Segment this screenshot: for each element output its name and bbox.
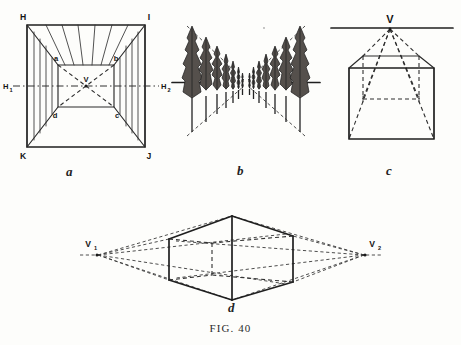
horizon-label-right-letter: H [161, 82, 166, 91]
vanishing-point-right-label: V 2 [369, 239, 381, 251]
vertex-label-J: J [147, 151, 152, 161]
figure-plate: H I K J a b c d V H 1 H 2 a [0, 0, 461, 345]
tree-left-1 [182, 26, 202, 132]
figure-b-drawing [172, 8, 320, 160]
cube-top-face [349, 56, 434, 68]
stray-mark [263, 27, 265, 29]
vertex-label-a: a [54, 54, 59, 63]
vertex-label-c: c [115, 111, 119, 120]
tree-right-1 [290, 26, 310, 132]
figure-d: V 1 V 2 [72, 202, 390, 314]
vertex-label-d: d [53, 111, 58, 120]
vertex-label-V2-letter: V [369, 239, 375, 249]
vanishing-point-marker [389, 28, 392, 31]
horizon-label-right-subscript: 2 [168, 87, 171, 93]
tree-right-6 [252, 67, 255, 99]
tree-row-right [249, 26, 310, 132]
tree-right-3 [270, 46, 280, 114]
tree-right-7 [249, 73, 251, 95]
horizon-label-right: H 2 [161, 82, 171, 93]
vertex-label-V1-subscript: 1 [94, 245, 97, 251]
vanishing-point-right-marker [364, 254, 367, 257]
figure-a-drawing: H I K J a b c d V H 1 H 2 [0, 4, 175, 164]
figure-c: V [322, 6, 461, 164]
tree-left-7 [242, 73, 244, 95]
vanishing-rays [349, 29, 434, 139]
vertex-label-K: K [20, 151, 27, 161]
plate-caption: FIG. 40 [0, 322, 461, 334]
vanishing-point-left-label: V 1 [85, 239, 97, 251]
horizon-label-left: H 1 [3, 82, 13, 93]
figure-b [172, 8, 320, 160]
figure-c-sublabel: c [386, 163, 392, 179]
tree-left-2 [199, 37, 213, 122]
tree-left-3 [212, 46, 222, 114]
figure-d-sublabel: d [228, 300, 235, 316]
vertex-label-V: V [83, 75, 89, 84]
vertex-label-V: V [386, 13, 394, 25]
vertex-label-V2-subscript: 2 [378, 245, 381, 251]
tree-right-2 [279, 37, 293, 122]
figure-a: H I K J a b c d V H 1 H 2 [0, 4, 175, 164]
vertex-label-I: I [148, 12, 150, 22]
figure-c-drawing: V [322, 6, 461, 164]
tree-row-left [182, 26, 243, 132]
horizon-label-left-letter: H [3, 82, 8, 91]
vanishing-point-left-marker [96, 254, 99, 257]
horizon-label-left-subscript: 1 [10, 87, 13, 93]
figure-a-sublabel: a [66, 164, 73, 180]
vertex-label-V1-letter: V [85, 239, 91, 249]
vanishing-point-marker [85, 85, 88, 88]
figure-b-sublabel: b [237, 163, 244, 179]
vertex-label-H: H [20, 12, 26, 22]
vertex-label-b: b [114, 54, 119, 63]
tree-left-6 [237, 67, 240, 99]
figure-d-drawing: V 1 V 2 [72, 202, 390, 314]
